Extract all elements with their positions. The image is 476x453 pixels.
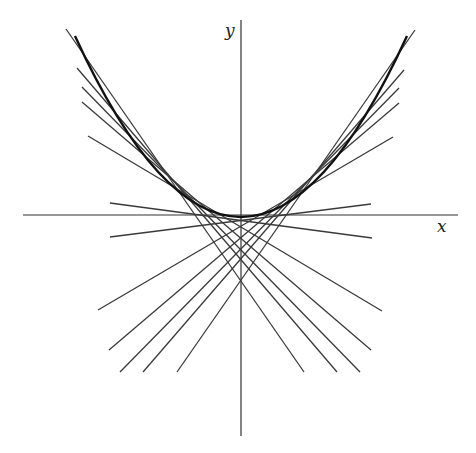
tangent-line — [177, 30, 415, 372]
tangent-line — [82, 87, 360, 372]
tangent-line — [98, 137, 393, 310]
diagram-canvas — [0, 0, 476, 453]
y-axis-label: y — [225, 20, 235, 40]
tangent-line — [109, 103, 399, 350]
tangent-line — [82, 102, 371, 350]
tangent-line — [88, 136, 382, 311]
x-axis-label: x — [437, 216, 447, 236]
tangent-line — [66, 29, 304, 372]
